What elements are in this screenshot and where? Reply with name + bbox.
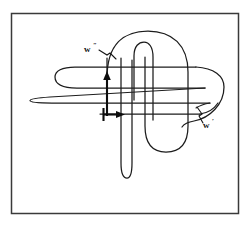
label-w-prime: w ′	[203, 117, 214, 130]
label-w-prime-base: w	[203, 120, 210, 130]
label-layer: w ″ w ′	[0, 0, 250, 227]
label-w-double-prime-mark: ″	[93, 41, 97, 49]
label-w-prime-mark: ′	[212, 117, 214, 125]
knot-figure-canvas: w ″ w ′	[0, 0, 250, 227]
label-w-double-prime-base: w	[84, 44, 91, 54]
label-w-double-prime: w ″	[84, 41, 97, 54]
